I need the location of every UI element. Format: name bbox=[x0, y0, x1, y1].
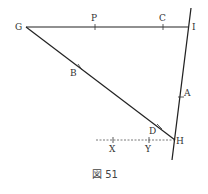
label-i: I bbox=[192, 22, 196, 32]
label-a: A bbox=[183, 88, 191, 98]
label-h: H bbox=[176, 136, 184, 146]
figure-caption: 図 51 bbox=[92, 169, 118, 180]
label-c: C bbox=[159, 13, 166, 23]
label-x: X bbox=[109, 144, 116, 154]
line-gh bbox=[26, 27, 175, 140]
label-g: G bbox=[15, 22, 22, 32]
label-y: Y bbox=[144, 144, 152, 154]
geometry-figure: G P C I B A D H X Y 図 51 bbox=[0, 0, 208, 194]
label-p: P bbox=[91, 13, 97, 23]
label-b: B bbox=[70, 68, 77, 78]
label-d: D bbox=[149, 126, 156, 136]
